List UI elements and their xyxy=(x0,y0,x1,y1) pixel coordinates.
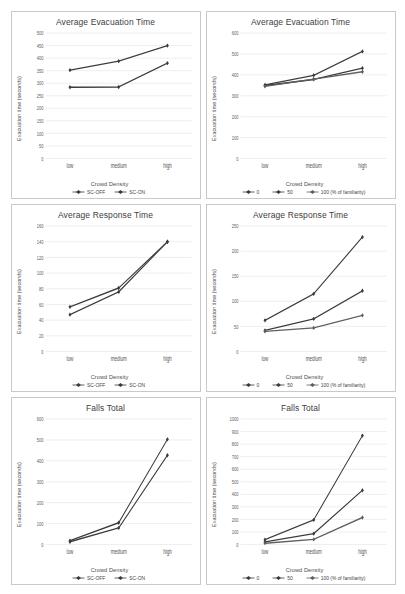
legend-item[interactable]: 0 xyxy=(242,189,260,195)
svg-text:high: high xyxy=(358,548,367,555)
legend-item[interactable]: 100 (% of familiarity) xyxy=(306,189,366,195)
legend-marker-icon xyxy=(306,189,319,195)
chart-panel-avg-evac-sc: Average Evacuation TimeEvacuation time (… xyxy=(11,11,201,199)
legend-item[interactable]: SC-OFF xyxy=(72,575,105,581)
plot-area: 020406080100120140160lowmediumhigh xyxy=(23,221,197,373)
svg-text:1000: 1000 xyxy=(230,415,239,422)
chart-title: Falls Total xyxy=(209,403,392,413)
svg-text:200: 200 xyxy=(37,499,44,506)
svg-text:250: 250 xyxy=(232,222,239,229)
chart-panel-avg-resp-sc: Average Response TimeEvacuation time (se… xyxy=(11,204,201,392)
svg-text:medium: medium xyxy=(306,162,322,169)
svg-text:0: 0 xyxy=(236,541,238,548)
legend-item[interactable]: SC-OFF xyxy=(72,189,105,195)
chart-svg: 050100150200250300350400450500lowmediumh… xyxy=(23,28,197,180)
svg-text:40: 40 xyxy=(39,316,44,323)
x-axis-label: Crowd Density xyxy=(209,567,392,573)
chart-title: Average Response Time xyxy=(14,210,197,220)
svg-text:50: 50 xyxy=(234,323,239,330)
svg-text:600: 600 xyxy=(37,415,44,422)
legend-item[interactable]: SC-ON xyxy=(114,575,145,581)
chart-legend: SC-OFFSC-ON xyxy=(14,382,197,388)
legend-label: 50 xyxy=(287,576,292,581)
svg-text:0: 0 xyxy=(236,155,238,162)
chart-panel-avg-evac-fam: Average Evacuation TimeEvacuation time (… xyxy=(206,11,396,199)
chart-legend: SC-OFFSC-ON xyxy=(14,189,197,195)
legend-marker-icon xyxy=(306,575,319,581)
svg-text:low: low xyxy=(262,548,270,555)
svg-text:300: 300 xyxy=(37,478,44,485)
legend-marker-icon xyxy=(114,189,127,195)
plot-area: 0100200300400500600lowmediumhigh xyxy=(23,414,197,566)
legend-label: 100 (% of familiarity) xyxy=(321,576,366,581)
svg-text:50: 50 xyxy=(39,142,44,149)
legend-label: 0 xyxy=(257,190,260,195)
svg-text:medium: medium xyxy=(111,548,127,555)
legend-item[interactable]: 0 xyxy=(242,575,260,581)
svg-text:150: 150 xyxy=(232,273,239,280)
legend-item[interactable]: 50 xyxy=(272,189,292,195)
legend-label: SC-ON xyxy=(129,383,145,388)
svg-text:high: high xyxy=(358,162,367,169)
chart-panel-falls-fam: Falls TotalEvacuation time (seconds)0100… xyxy=(206,397,396,585)
svg-text:140: 140 xyxy=(37,238,44,245)
legend-item[interactable]: 100 (% of familiarity) xyxy=(306,575,366,581)
chart-svg: 0100200300400500600lowmediumhigh xyxy=(218,28,392,180)
chart-legend: 050100 (% of familiarity) xyxy=(209,575,392,581)
svg-text:300: 300 xyxy=(232,92,239,99)
svg-text:500: 500 xyxy=(37,29,44,36)
figure-page: Average Evacuation TimeEvacuation time (… xyxy=(0,0,405,594)
legend-item[interactable]: SC-OFF xyxy=(72,382,105,388)
legend-marker-icon xyxy=(242,189,255,195)
legend-item[interactable]: SC-ON xyxy=(114,189,145,195)
svg-text:0: 0 xyxy=(41,348,43,355)
chart-panel-falls-sc: Falls TotalEvacuation time (seconds)0100… xyxy=(11,397,201,585)
svg-text:300: 300 xyxy=(37,80,44,87)
svg-text:160: 160 xyxy=(37,222,44,229)
svg-text:200: 200 xyxy=(232,516,239,523)
legend-item[interactable]: 50 xyxy=(272,575,292,581)
legend-marker-icon xyxy=(72,189,85,195)
svg-text:low: low xyxy=(262,355,270,362)
chart-legend: 050100 (% of familiarity) xyxy=(209,189,392,195)
svg-text:100: 100 xyxy=(232,134,239,141)
chart-svg: 020406080100120140160lowmediumhigh xyxy=(23,221,197,373)
svg-text:0: 0 xyxy=(236,348,238,355)
svg-text:low: low xyxy=(67,162,75,169)
legend-item[interactable]: 50 xyxy=(272,382,292,388)
legend-label: 100 (% of familiarity) xyxy=(321,190,366,195)
svg-text:medium: medium xyxy=(306,548,322,555)
legend-marker-icon xyxy=(242,575,255,581)
legend-label: 100 (% of familiarity) xyxy=(321,383,366,388)
legend-item[interactable]: 0 xyxy=(242,382,260,388)
legend-item[interactable]: 100 (% of familiarity) xyxy=(306,382,366,388)
legend-marker-icon xyxy=(306,382,319,388)
svg-text:high: high xyxy=(163,548,172,555)
chart-row-1: Average Evacuation TimeEvacuation time (… xyxy=(11,11,396,199)
chart-legend: 050100 (% of familiarity) xyxy=(209,382,392,388)
svg-text:200: 200 xyxy=(232,247,239,254)
legend-marker-icon xyxy=(114,382,127,388)
legend-marker-icon xyxy=(272,382,285,388)
legend-label: 0 xyxy=(257,383,260,388)
svg-text:150: 150 xyxy=(37,117,44,124)
legend-label: 50 xyxy=(287,190,292,195)
svg-text:450: 450 xyxy=(37,42,44,49)
chart-svg: 01002003004005006007008009001000lowmediu… xyxy=(218,414,392,566)
plot-area: 0100200300400500600lowmediumhigh xyxy=(218,28,392,180)
legend-label: SC-ON xyxy=(129,576,145,581)
svg-text:80: 80 xyxy=(39,285,44,292)
legend-label: 0 xyxy=(257,576,260,581)
x-axis-label: Crowd Density xyxy=(14,567,197,573)
svg-text:0: 0 xyxy=(41,155,43,162)
svg-text:high: high xyxy=(163,355,172,362)
plot-wrapper: Evacuation time (seconds)010020030040050… xyxy=(14,414,197,566)
plot-wrapper: Evacuation time (seconds)010020030040050… xyxy=(209,414,392,566)
svg-text:100: 100 xyxy=(232,528,239,535)
svg-text:low: low xyxy=(67,355,75,362)
svg-text:low: low xyxy=(67,548,75,555)
svg-text:350: 350 xyxy=(37,67,44,74)
legend-item[interactable]: SC-ON xyxy=(114,382,145,388)
chart-panel-avg-resp-fam: Average Response TimeEvacuation time (se… xyxy=(206,204,396,392)
svg-text:300: 300 xyxy=(232,503,239,510)
